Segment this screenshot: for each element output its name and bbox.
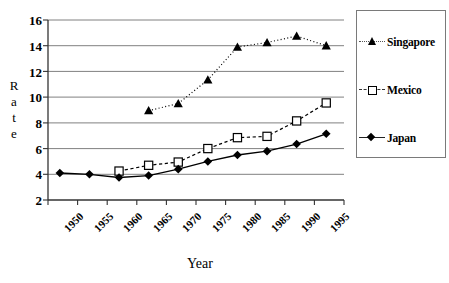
data-point-diamond: [292, 140, 301, 149]
legend-item-japan[interactable]: Japan: [357, 127, 445, 149]
data-point-square: [322, 99, 330, 107]
data-point-diamond: [233, 151, 242, 160]
legend-swatch-mexico: [357, 83, 387, 97]
filled-diamond-icon: [367, 133, 375, 141]
data-point-square: [293, 117, 301, 125]
open-square-icon: [368, 86, 377, 95]
chart-figure: R a t e 16 14 12 10 8 6 4 2: [0, 0, 449, 283]
data-point-square: [233, 134, 241, 142]
y-axis-line: [43, 20, 48, 200]
legend-swatch-singapore: [357, 35, 387, 49]
data-point-diamond: [56, 169, 65, 178]
gridlines: [48, 20, 344, 174]
data-point-diamond: [322, 129, 331, 138]
data-point-diamond: [204, 157, 213, 166]
filled-triangle-icon: [368, 37, 376, 45]
data-point-triangle: [292, 31, 301, 39]
legend-label: Singapore: [387, 36, 435, 48]
data-point-diamond: [144, 171, 153, 180]
series-layer: [56, 31, 331, 181]
legend-label: Mexico: [387, 84, 422, 96]
legend-swatch-japan: [357, 131, 387, 145]
x-axis-line: [48, 200, 344, 205]
legend-label: Japan: [387, 132, 416, 144]
data-point-triangle: [144, 106, 153, 114]
data-point-triangle: [174, 99, 183, 107]
data-point-square: [263, 132, 271, 140]
series-singapore: [144, 31, 331, 114]
legend-item-singapore[interactable]: Singapore: [357, 31, 445, 53]
data-point-triangle: [203, 75, 212, 83]
legend-item-mexico[interactable]: Mexico: [357, 79, 445, 101]
data-point-diamond: [85, 170, 94, 179]
x-axis-title: Year: [150, 256, 250, 272]
data-point-triangle: [262, 38, 271, 46]
data-point-square: [204, 144, 212, 152]
legend: Singapore Mexico Japan: [356, 10, 446, 158]
data-point-square: [145, 161, 153, 169]
